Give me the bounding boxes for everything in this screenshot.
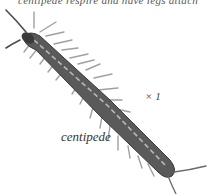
centipede-illustration xyxy=(0,0,213,194)
scale-label: × 1 xyxy=(145,90,161,102)
caption-label: centipede xyxy=(61,129,111,145)
centipede-body xyxy=(24,33,175,177)
antennae xyxy=(6,10,26,48)
